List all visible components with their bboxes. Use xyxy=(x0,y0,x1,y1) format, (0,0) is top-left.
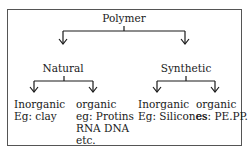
node-label: organic xyxy=(76,98,134,110)
node-polymer: Polymer xyxy=(102,12,145,24)
node-natural-organic: organic eg: Protins RNA DNA etc. xyxy=(76,98,134,146)
node-example: Eg: clay xyxy=(14,110,65,122)
node-synthetic: Synthetic xyxy=(161,62,212,74)
node-example: es: PE.PP. xyxy=(196,110,248,122)
node-synthetic-organic: organic es: PE.PP. xyxy=(196,98,248,122)
node-natural: Natural xyxy=(42,62,83,74)
node-label: organic xyxy=(196,98,248,110)
node-example: etc. xyxy=(76,134,134,146)
node-label: Inorganic xyxy=(14,98,65,110)
node-natural-inorganic: Inorganic Eg: clay xyxy=(14,98,65,122)
node-example: eg: Protins xyxy=(76,110,134,122)
node-example: RNA DNA xyxy=(76,122,134,134)
